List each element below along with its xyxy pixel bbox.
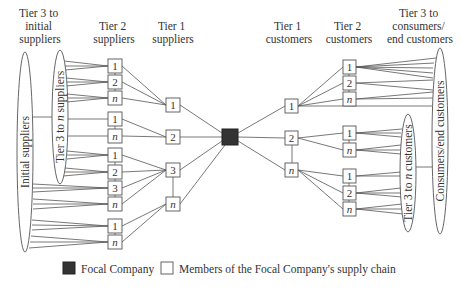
tier2-suppliers: 1 2 n 1 n 1 2 3 n 1 n xyxy=(108,59,122,249)
node-tier2-supplier: n xyxy=(108,91,122,105)
node-tier2-supplier: 1 xyxy=(108,148,122,162)
svg-text:1: 1 xyxy=(347,61,353,73)
node-tier2-supplier: 1 xyxy=(108,59,122,73)
legend: Focal Company Members of the Focal Compa… xyxy=(63,262,396,276)
svg-text:n: n xyxy=(347,203,353,215)
node-tier2-supplier: n xyxy=(108,129,122,143)
svg-text:n: n xyxy=(347,93,353,105)
node-tier2-supplier: 1 xyxy=(108,112,122,126)
node-tier2-customer: n xyxy=(343,143,356,157)
tier2-customers: 1 2 n 1 n 1 2 n xyxy=(343,60,356,216)
svg-text:1: 1 xyxy=(289,100,295,112)
svg-text:Tier 3 to n suppliers: Tier 3 to n suppliers xyxy=(54,70,67,163)
tier1-customers: 1 2 n xyxy=(285,99,298,177)
node-tier1-supplier: 3 xyxy=(166,163,180,177)
svg-text:3: 3 xyxy=(112,182,118,194)
header-tier3-customers: Tier 3 to consumers/ end customers xyxy=(387,7,454,45)
svg-text:n: n xyxy=(170,198,176,210)
node-tier1-customer: 2 xyxy=(285,131,298,145)
node-tier2-customer: n xyxy=(343,92,356,106)
node-tier2-supplier: 3 xyxy=(108,181,122,195)
svg-text:2: 2 xyxy=(170,131,176,143)
legend-focal-swatch xyxy=(63,262,75,274)
ellipse-tier3-to-n-customers: Tier 3 to n customers xyxy=(400,114,416,232)
svg-text:1: 1 xyxy=(112,113,118,125)
supply-chain-diagram: Tier 3 to initial suppliers Tier 2 suppl… xyxy=(0,0,463,289)
header-tier3-suppliers: Tier 3 to initial suppliers xyxy=(19,7,61,46)
svg-text:1: 1 xyxy=(347,127,353,139)
header-tier1-customers: Tier 1 customers xyxy=(266,20,313,45)
svg-text:3: 3 xyxy=(170,164,176,176)
node-tier1-supplier: n xyxy=(166,197,180,211)
node-tier2-customer: 2 xyxy=(343,186,356,200)
node-tier2-supplier: n xyxy=(108,235,122,249)
svg-text:1: 1 xyxy=(112,60,118,72)
legend-focal-label: Focal Company xyxy=(81,263,154,276)
svg-text:Consumers/end customers: Consumers/end customers xyxy=(434,80,446,202)
svg-text:1: 1 xyxy=(170,99,176,111)
ellipse-initial-suppliers: Initial suppliers xyxy=(17,52,33,252)
legend-member-swatch xyxy=(161,262,173,274)
node-tier2-supplier: 1 xyxy=(108,219,122,233)
node-tier2-supplier: 2 xyxy=(108,75,122,89)
header-tier1-suppliers: Tier 1 suppliers xyxy=(152,20,194,46)
svg-text:2: 2 xyxy=(112,76,118,88)
node-tier1-customer: n xyxy=(285,163,298,177)
svg-text:n: n xyxy=(112,198,118,210)
node-tier1-supplier: 2 xyxy=(166,130,180,144)
header-tier2-suppliers: Tier 2 suppliers xyxy=(93,20,135,46)
svg-text:Initial suppliers: Initial suppliers xyxy=(19,116,32,188)
ellipse-tier3-to-n-suppliers: Tier 3 to n suppliers xyxy=(52,50,68,184)
svg-text:2: 2 xyxy=(112,166,118,178)
node-tier2-supplier: 2 xyxy=(108,165,122,179)
svg-text:n: n xyxy=(112,236,118,248)
svg-text:n: n xyxy=(112,130,118,142)
node-tier1-supplier: 1 xyxy=(166,98,180,112)
svg-text:1: 1 xyxy=(112,220,118,232)
svg-text:n: n xyxy=(289,164,295,176)
node-tier2-customer: 1 xyxy=(343,169,356,183)
node-tier2-customer: n xyxy=(343,202,356,216)
svg-text:n: n xyxy=(347,144,353,156)
svg-text:2: 2 xyxy=(347,77,353,89)
legend-member-label: Members of the Focal Company's supply ch… xyxy=(179,263,396,276)
focal-company-node xyxy=(222,129,238,145)
svg-text:2: 2 xyxy=(347,187,353,199)
svg-text:Tier 3 to n customers: Tier 3 to n customers xyxy=(402,124,414,222)
svg-text:1: 1 xyxy=(347,170,353,182)
svg-text:n: n xyxy=(112,92,118,104)
node-tier2-supplier: n xyxy=(108,197,122,211)
node-tier2-customer: 1 xyxy=(343,60,356,74)
node-tier1-customer: 1 xyxy=(285,99,298,113)
connector-lines xyxy=(29,58,436,248)
node-tier2-customer: 2 xyxy=(343,76,356,90)
header-tier2-customers: Tier 2 customers xyxy=(326,20,373,45)
node-tier2-customer: 1 xyxy=(343,126,356,140)
ellipse-consumers-end-customers: Consumers/end customers xyxy=(432,48,448,234)
svg-text:1: 1 xyxy=(112,149,118,161)
svg-text:2: 2 xyxy=(289,132,295,144)
